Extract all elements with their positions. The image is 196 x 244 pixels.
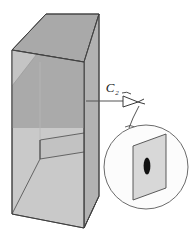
rectangular-specimen-block bbox=[12, 14, 99, 228]
arrowhead-tail-lower bbox=[138, 102, 145, 104]
diagram-svg: C 2 bbox=[0, 0, 196, 244]
arrow-flick bbox=[122, 92, 131, 94]
arrowhead-icon bbox=[123, 96, 138, 107]
diagram-canvas: C 2 bbox=[0, 0, 196, 244]
magnified-inset-circle[interactable] bbox=[104, 125, 188, 209]
annotation-label: C bbox=[106, 80, 115, 95]
annotation-label-subscript: 2 bbox=[115, 89, 119, 97]
magnifier-connector-line bbox=[129, 106, 139, 128]
elliptical-defect bbox=[144, 157, 151, 174]
arrowhead-tail bbox=[138, 99, 144, 102]
